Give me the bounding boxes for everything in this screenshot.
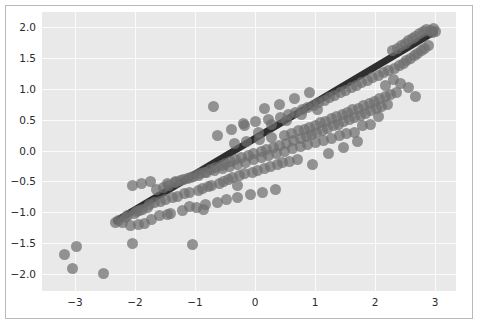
- scatter-point: [212, 130, 223, 141]
- scatter-point: [127, 238, 138, 249]
- scatter-point: [67, 263, 78, 274]
- scatter-point: [232, 192, 243, 203]
- scatter-point: [232, 180, 243, 191]
- y-tick-label: −2.0: [11, 269, 37, 280]
- scatter-point: [382, 99, 393, 110]
- scatter-points-layer: [42, 12, 456, 291]
- x-tick-label: 1: [312, 297, 319, 308]
- scatter-point: [312, 104, 323, 115]
- scatter-point: [71, 241, 82, 252]
- x-tick-label: 3: [432, 297, 439, 308]
- scatter-point: [59, 249, 70, 260]
- x-tick-label: 2: [372, 297, 379, 308]
- scatter-point: [259, 103, 270, 114]
- x-tick-label: 0: [252, 297, 259, 308]
- scatter-point: [187, 239, 198, 250]
- scatter-point: [307, 159, 318, 170]
- scatter-point: [323, 148, 334, 159]
- x-axis-tick-labels: −3−2−10123: [0, 297, 479, 315]
- scatter-point: [430, 26, 441, 37]
- y-tick-label: −1.0: [11, 207, 37, 218]
- scatter-point: [98, 268, 109, 279]
- scatter-point: [245, 189, 256, 200]
- scatter-point: [208, 101, 219, 112]
- scatter-point: [289, 93, 300, 104]
- x-tick-label: −3: [67, 297, 82, 308]
- scatter-point: [226, 124, 237, 135]
- scatter-point: [239, 120, 250, 131]
- scatter-point: [162, 209, 173, 220]
- scatter-point: [274, 99, 285, 110]
- scatter-point: [241, 136, 252, 147]
- x-tick-label: −1: [187, 297, 202, 308]
- scatter-point: [304, 87, 315, 98]
- scatter-point: [145, 176, 156, 187]
- scatter-point: [266, 119, 277, 130]
- scatter-point: [423, 40, 434, 51]
- y-tick-label: 0.0: [19, 146, 36, 157]
- scatter-point: [221, 194, 232, 205]
- y-tick-label: 0.5: [19, 115, 36, 126]
- scatter-point: [292, 154, 303, 165]
- scatter-point: [270, 184, 281, 195]
- scatter-point: [296, 109, 307, 120]
- plot-area: [42, 12, 456, 291]
- y-tick-label: 2.0: [19, 22, 36, 33]
- scatter-point: [229, 138, 240, 149]
- figure: 2.01.51.00.50.0−0.5−1.0−1.5−2.0 −3−2−101…: [0, 0, 479, 325]
- scatter-point: [410, 91, 421, 102]
- scatter-point: [281, 115, 292, 126]
- x-tick-label: −2: [127, 297, 142, 308]
- y-tick-label: 1.5: [19, 53, 36, 64]
- y-tick-label: −1.5: [11, 238, 37, 249]
- scatter-point: [257, 187, 268, 198]
- scatter-point: [253, 127, 264, 138]
- scatter-point: [198, 204, 209, 215]
- y-tick-label: −0.5: [11, 176, 37, 187]
- scatter-point: [352, 136, 363, 147]
- scatter-point: [250, 116, 261, 127]
- y-axis-tick-labels: 2.01.51.00.50.0−0.5−1.0−1.5−2.0: [0, 0, 36, 325]
- scatter-point: [184, 201, 195, 212]
- scatter-point: [338, 142, 349, 153]
- y-tick-label: 1.0: [19, 84, 36, 95]
